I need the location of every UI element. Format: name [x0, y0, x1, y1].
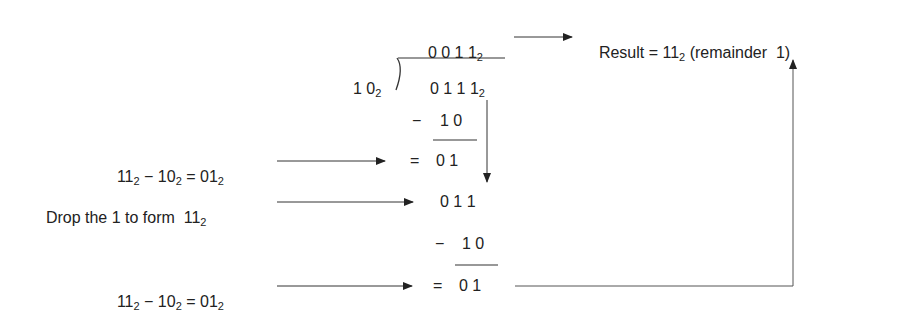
- equals: =: [182, 293, 200, 310]
- step1-subtrahend: 1 0: [440, 113, 462, 129]
- base: 2: [218, 300, 224, 312]
- dividend-digits: 0 1 1 1: [430, 80, 479, 97]
- step1-minus: −: [412, 113, 421, 129]
- result: 01: [200, 293, 218, 310]
- remainder-connector: [515, 60, 793, 286]
- base: 2: [218, 175, 224, 187]
- quotient-base: 2: [477, 51, 483, 63]
- step3-annotation: 112 − 102 = 012: [108, 278, 224, 312]
- step3-minus: −: [435, 236, 444, 252]
- divisor-base: 2: [375, 87, 381, 99]
- dividend: 0 1 1 12: [421, 65, 485, 99]
- divisor: 1 02: [344, 65, 381, 99]
- annotation-text: Drop the 1 to form 11: [46, 209, 200, 226]
- operator: −: [140, 168, 158, 185]
- operand-b: 10: [158, 168, 176, 185]
- step1-annotation: 112 − 102 = 012: [108, 153, 224, 187]
- result: 01: [200, 168, 218, 185]
- division-bracket: [396, 58, 400, 90]
- base: 2: [200, 216, 206, 228]
- step2-annotation: Drop the 1 to form 112: [37, 194, 206, 228]
- result-suffix: (remainder 1): [685, 44, 790, 61]
- divisor-digits: 1 0: [353, 80, 375, 97]
- step2-brought-down: 0 1 1: [440, 194, 476, 210]
- step3-subtrahend: 1 0: [462, 236, 484, 252]
- operand-b: 10: [158, 293, 176, 310]
- step3-equals: =: [433, 278, 442, 294]
- quotient: 0 0 1 12: [419, 29, 483, 63]
- operand-a: 11: [117, 168, 134, 185]
- result-prefix: Result = 11: [599, 44, 679, 61]
- result-label: Result = 112 (remainder 1): [590, 29, 790, 63]
- dividend-base: 2: [479, 87, 485, 99]
- equals: =: [182, 168, 200, 185]
- operator: −: [140, 293, 158, 310]
- quotient-digits: 0 0 1 1: [428, 44, 477, 61]
- step1-difference: 0 1: [436, 153, 458, 169]
- step1-equals: =: [410, 153, 419, 169]
- operand-a: 11: [117, 293, 134, 310]
- step3-difference: 0 1: [459, 278, 481, 294]
